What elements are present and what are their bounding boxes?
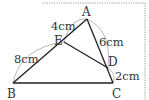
dotted-frame xyxy=(42,3,145,100)
label-E: E xyxy=(54,34,63,48)
label-B: B xyxy=(7,87,16,100)
label-A: A xyxy=(81,5,91,19)
geometry-figure: A B C D E 4cm 6cm 8cm 2cm xyxy=(0,0,149,100)
length-DC: 2cm xyxy=(115,69,140,83)
arc-DC xyxy=(108,68,114,83)
length-EB: 8cm xyxy=(14,52,39,66)
length-AE: 4cm xyxy=(51,19,76,33)
label-C: C xyxy=(112,87,121,100)
label-D: D xyxy=(108,55,118,69)
side-AB xyxy=(13,19,87,83)
length-AD: 6cm xyxy=(99,35,124,49)
